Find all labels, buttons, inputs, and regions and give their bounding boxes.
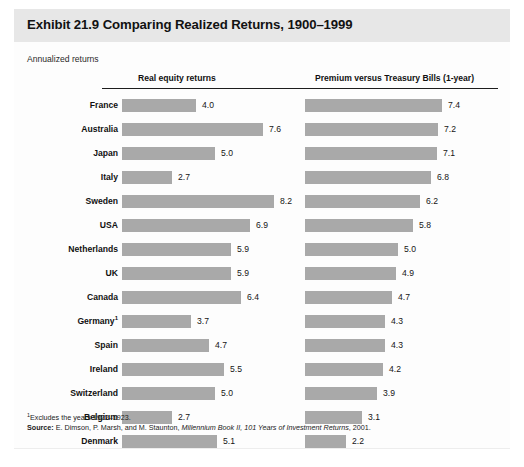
- panel-premium-vs-tbills: 4.3: [305, 335, 510, 359]
- chart-row: Germany13.74.3: [14, 311, 510, 335]
- row-label-switzerland: Switzerland: [14, 388, 118, 398]
- panel-premium-vs-tbills: 5.8: [305, 215, 510, 239]
- row-label-japan: Japan: [14, 148, 118, 158]
- bar-denmark-s2: [305, 435, 346, 448]
- chart-row: Denmark5.12.2: [14, 431, 510, 455]
- panel-real-equity-returns: 5.0: [122, 383, 302, 407]
- chart-row: UK5.94.9: [14, 263, 510, 287]
- chart-row: USA6.95.8: [14, 215, 510, 239]
- bar-value-italy-s1: 2.7: [178, 172, 190, 182]
- row-label-germany: Germany1: [14, 316, 118, 326]
- panel-real-equity-returns: 5.9: [122, 263, 302, 287]
- bar-spain-s2: [305, 339, 385, 352]
- bar-value-ireland-s2: 4.2: [389, 364, 401, 374]
- row-label-france: France: [14, 100, 118, 110]
- bar-usa-s1: [122, 219, 250, 232]
- panel-real-equity-returns: 6.9: [122, 215, 302, 239]
- bar-value-switzerland-s1: 5.0: [221, 388, 233, 398]
- panel-real-equity-returns: 5.1: [122, 431, 302, 455]
- bar-germany-s2: [305, 315, 385, 328]
- row-label-sweden: Sweden: [14, 196, 118, 206]
- exhibit-panel: Exhibit 21.9 Comparing Realized Returns,…: [14, 9, 510, 449]
- row-label-spain: Spain: [14, 340, 118, 350]
- bar-value-uk-s1: 5.9: [237, 268, 249, 278]
- chart-subtitle: Annualized returns: [27, 54, 99, 64]
- bar-value-netherlands-s1: 5.9: [237, 244, 249, 254]
- bar-japan-s1: [122, 147, 215, 160]
- bar-switzerland-s2: [305, 387, 377, 400]
- bar-italy-s2: [305, 171, 431, 184]
- chart-row: Italy2.76.8: [14, 167, 510, 191]
- panel-premium-vs-tbills: 4.9: [305, 263, 510, 287]
- chart-notes: 1Excludes the years 1922–1923. Source: E…: [27, 413, 497, 434]
- chart-row: Ireland5.54.2: [14, 359, 510, 383]
- source-year: , 2001.: [349, 423, 371, 432]
- column-header-real-equity-returns: Real equity returns: [138, 73, 216, 83]
- bar-uk-s1: [122, 267, 231, 280]
- bar-value-france-s2: 7.4: [448, 100, 460, 110]
- row-label-uk: UK: [14, 268, 118, 278]
- bar-value-netherlands-s2: 5.0: [404, 244, 416, 254]
- bar-value-ireland-s1: 5.5: [230, 364, 242, 374]
- chart-row: Canada6.44.7: [14, 287, 510, 311]
- panel-real-equity-returns: 5.0: [122, 143, 302, 167]
- bar-value-usa-s2: 5.8: [419, 220, 431, 230]
- panel-real-equity-returns: 4.7: [122, 335, 302, 359]
- bar-australia-s2: [305, 123, 438, 136]
- footnote-text: Excludes the years 1922–1923.: [30, 413, 131, 422]
- chart-row: Switzerland5.03.9: [14, 383, 510, 407]
- bar-value-italy-s2: 6.8: [437, 172, 449, 182]
- panel-real-equity-returns: 7.6: [122, 119, 302, 143]
- bar-value-uk-s2: 4.9: [402, 268, 414, 278]
- panel-premium-vs-tbills: 6.2: [305, 191, 510, 215]
- bar-uk-s2: [305, 267, 396, 280]
- bar-netherlands-s1: [122, 243, 231, 256]
- bar-canada-s2: [305, 291, 392, 304]
- bar-australia-s1: [122, 123, 263, 136]
- chart-row: Sweden8.26.2: [14, 191, 510, 215]
- bar-canada-s1: [122, 291, 241, 304]
- bar-switzerland-s1: [122, 387, 215, 400]
- row-label-usa: USA: [14, 220, 118, 230]
- bar-value-germany-s1: 3.7: [197, 316, 209, 326]
- source-authors: E. Dimson, P. Marsh, and M. Staunton,: [54, 423, 182, 432]
- panel-premium-vs-tbills: 3.9: [305, 383, 510, 407]
- bar-value-spain-s2: 4.3: [391, 340, 403, 350]
- bar-ireland-s2: [305, 363, 383, 376]
- source-line: Source: E. Dimson, P. Marsh, and M. Stau…: [27, 423, 497, 433]
- panel-real-equity-returns: 5.9: [122, 239, 302, 263]
- bar-value-germany-s2: 4.3: [391, 316, 403, 326]
- panel-premium-vs-tbills: 4.2: [305, 359, 510, 383]
- panel-real-equity-returns: 6.4: [122, 287, 302, 311]
- bar-value-france-s1: 4.0: [202, 100, 214, 110]
- panel-premium-vs-tbills: 4.7: [305, 287, 510, 311]
- footnote-line: 1Excludes the years 1922–1923.: [27, 413, 497, 423]
- row-label-australia: Australia: [14, 124, 118, 134]
- bar-france-s1: [122, 99, 196, 112]
- bar-denmark-s1: [122, 435, 217, 448]
- bar-usa-s2: [305, 219, 413, 232]
- bar-france-s2: [305, 99, 442, 112]
- bar-ireland-s1: [122, 363, 224, 376]
- bar-value-australia-s2: 7.2: [444, 124, 456, 134]
- header-rule: [102, 88, 498, 89]
- row-label-footnote-marker: 1: [115, 315, 118, 321]
- bar-value-japan-s1: 5.0: [221, 148, 233, 158]
- panel-premium-vs-tbills: 4.3: [305, 311, 510, 335]
- row-label-canada: Canada: [14, 292, 118, 302]
- bar-value-canada-s1: 6.4: [247, 292, 259, 302]
- bar-chart: France4.07.4Australia7.67.2Japan5.07.1It…: [14, 95, 510, 455]
- row-label-netherlands: Netherlands: [14, 244, 118, 254]
- bar-italy-s1: [122, 171, 172, 184]
- panel-premium-vs-tbills: 2.2: [305, 431, 510, 455]
- chart-row: Spain4.74.3: [14, 335, 510, 359]
- panel-premium-vs-tbills: 5.0: [305, 239, 510, 263]
- source-title: Millennium Book II, 101 Years of Investm…: [181, 423, 348, 432]
- bar-sweden-s1: [122, 195, 274, 208]
- bar-value-switzerland-s2: 3.9: [383, 388, 395, 398]
- bar-value-denmark-s1: 5.1: [223, 436, 235, 446]
- bar-value-sweden-s1: 8.2: [280, 196, 292, 206]
- panel-real-equity-returns: 8.2: [122, 191, 302, 215]
- bar-value-canada-s2: 4.7: [398, 292, 410, 302]
- bar-value-usa-s1: 6.9: [256, 220, 268, 230]
